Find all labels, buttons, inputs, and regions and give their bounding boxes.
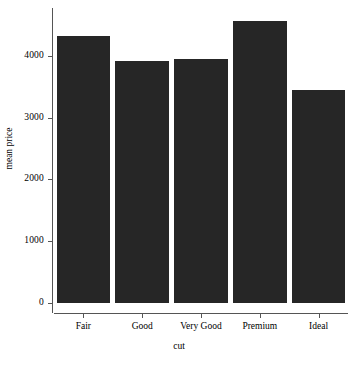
y-tick-0 — [48, 303, 52, 304]
x-tick-0 — [83, 314, 84, 318]
bar-premium — [233, 21, 287, 303]
x-tick-3 — [260, 314, 261, 318]
bar-chart: 01000200030004000 FairGoodVery GoodPremi… — [0, 0, 358, 365]
y-tick-2000 — [48, 179, 52, 180]
bar-very-good — [174, 59, 228, 303]
y-axis-line — [52, 8, 53, 313]
y-tick-label-2000: 2000 — [24, 174, 44, 184]
x-tick-2 — [201, 314, 202, 318]
x-tick-label-ideal: Ideal — [274, 321, 358, 332]
bar-good — [115, 61, 169, 303]
x-tick-1 — [142, 314, 143, 318]
y-tick-3000 — [48, 118, 52, 119]
bar-fair — [57, 36, 111, 303]
y-axis-title: mean price — [4, 99, 15, 199]
bar-ideal — [292, 90, 346, 303]
x-axis-title: cut — [0, 341, 358, 352]
y-tick-label-3000: 3000 — [24, 113, 44, 123]
y-tick-label-0: 0 — [39, 298, 44, 308]
y-tick-label-1000: 1000 — [24, 236, 44, 246]
y-tick-1000 — [48, 241, 52, 242]
y-tick-4000 — [48, 56, 52, 57]
x-tick-4 — [319, 314, 320, 318]
y-tick-label-4000: 4000 — [24, 51, 44, 61]
